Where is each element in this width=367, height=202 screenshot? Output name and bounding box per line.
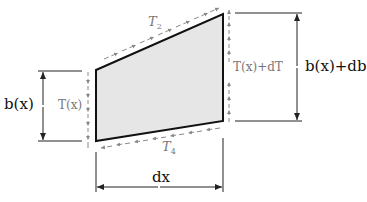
label-bx-db: b(x)+db — [305, 57, 367, 75]
label-t4: T4 — [162, 139, 176, 156]
trapezoid-element — [96, 14, 223, 141]
label-tx-dt: T(x)+dT — [233, 60, 283, 74]
label-dx: dx — [152, 168, 171, 186]
label-t2: T2 — [148, 14, 162, 31]
label-bx: b(x) — [4, 95, 34, 113]
label-tx: T(x) — [58, 98, 82, 112]
diagram-canvas: T2 T4 T(x) T(x)+dT b(x) b(x)+db dx — [0, 0, 367, 202]
